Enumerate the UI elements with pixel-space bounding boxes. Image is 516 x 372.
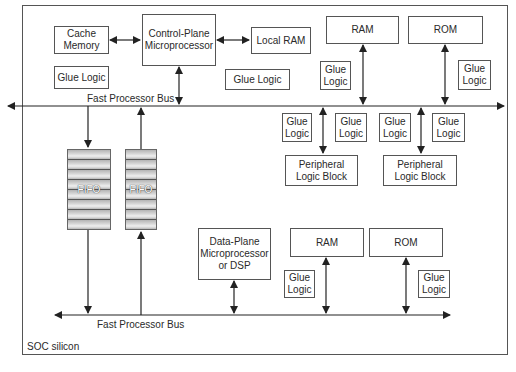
cache-memory-block: Cache Memory bbox=[54, 26, 109, 54]
top-bus-label: Fast Processor Bus bbox=[87, 93, 174, 104]
glue-logic-p1-left: Glue Logic bbox=[282, 113, 312, 142]
soc-silicon-label: SOC silicon bbox=[27, 341, 79, 352]
glue-logic-rom-bottom: Glue Logic bbox=[418, 270, 450, 298]
control-plane-microprocessor-block: Control-Plane Microprocessor bbox=[142, 14, 216, 66]
glue-logic-p2-left: Glue Logic bbox=[379, 113, 411, 142]
data-plane-microprocessor-block: Data-Plane Microprocessor or DSP bbox=[198, 228, 271, 280]
rom-top-block: ROM bbox=[408, 16, 483, 44]
fifo-1-label: FIFO bbox=[78, 184, 101, 195]
glue-logic-p2-right: Glue Logic bbox=[432, 113, 465, 142]
fifo-1: FIFO bbox=[67, 149, 111, 230]
ram-top-block: RAM bbox=[326, 16, 399, 44]
fifo-2: FIFO bbox=[125, 149, 157, 230]
glue-logic-mid: Glue Logic bbox=[225, 69, 290, 90]
bottom-bus-label: Fast Processor Bus bbox=[97, 319, 184, 330]
ram-bottom-block: RAM bbox=[290, 228, 364, 257]
glue-logic-ram-top: Glue Logic bbox=[320, 61, 351, 90]
peripheral-logic-block-1: Peripheral Logic Block bbox=[285, 155, 358, 186]
glue-logic-ram-bottom: Glue Logic bbox=[284, 270, 315, 298]
rom-bottom-block: ROM bbox=[369, 228, 443, 257]
peripheral-logic-block-2: Peripheral Logic Block bbox=[383, 155, 457, 186]
glue-logic-left: Glue Logic bbox=[54, 66, 109, 89]
glue-logic-p1-right: Glue Logic bbox=[335, 113, 367, 142]
fifo-2-label: FIFO bbox=[130, 184, 153, 195]
local-ram-block: Local RAM bbox=[251, 27, 311, 54]
glue-logic-rom-top: Glue Logic bbox=[458, 60, 491, 90]
